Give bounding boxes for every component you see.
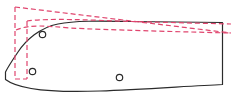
solid-outline-layer <box>6 21 223 91</box>
panel-outline <box>6 21 223 91</box>
hole-lower-center[interactable] <box>116 74 122 80</box>
drawing-canvas[interactable] <box>0 0 231 95</box>
technical-drawing <box>0 0 231 95</box>
reference-outline-layer <box>15 7 231 79</box>
holes-layer <box>29 31 122 80</box>
hole-lower-left[interactable] <box>29 68 35 74</box>
hole-upper-left[interactable] <box>39 31 45 37</box>
